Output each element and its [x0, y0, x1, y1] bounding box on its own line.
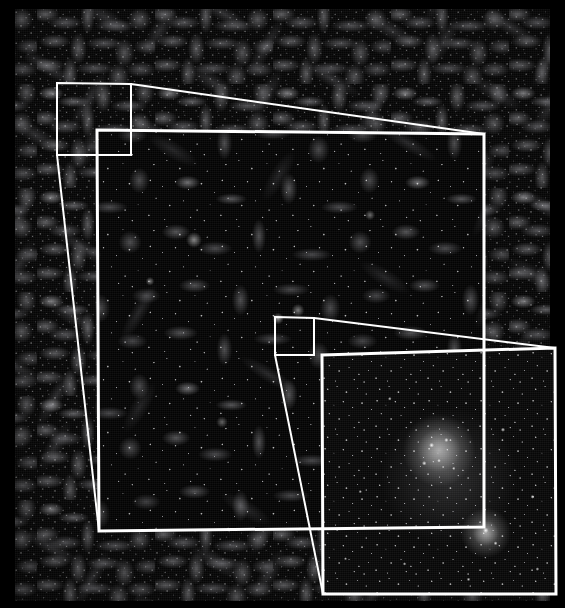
simulation-zoom-figure	[0, 0, 565, 608]
halo-zoom-panel	[316, 342, 562, 600]
zoom2-scanline-texture-vertical	[316, 342, 562, 600]
